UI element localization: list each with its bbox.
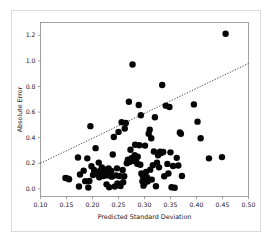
x-axis-label: Predicted Standard Deviation <box>98 213 192 221</box>
data-point <box>135 153 141 159</box>
y-tick-label: 0.8 <box>26 83 36 90</box>
data-point <box>120 179 126 185</box>
x-tick-label: 0.35 <box>164 201 178 208</box>
y-axis: 0.00.20.40.60.81.01.2Absolute Error <box>16 31 41 192</box>
data-point <box>206 155 212 161</box>
data-point <box>86 178 92 184</box>
data-point <box>137 162 143 168</box>
data-point <box>75 154 81 160</box>
data-point <box>179 173 185 179</box>
data-point <box>106 184 112 190</box>
data-point <box>136 142 142 148</box>
data-point <box>111 134 117 140</box>
data-point <box>164 161 170 167</box>
data-point <box>178 131 184 137</box>
data-point <box>122 125 128 131</box>
y-tick-label: 0.2 <box>26 159 36 166</box>
x-tick-label: 0.40 <box>190 201 204 208</box>
x-tick-label: 0.15 <box>60 201 74 208</box>
data-point <box>138 112 144 118</box>
y-tick-label: 0.0 <box>26 185 36 192</box>
x-tick-label: 0.45 <box>216 201 230 208</box>
data-point <box>152 114 158 120</box>
data-point <box>110 151 116 157</box>
x-tick-label: 0.10 <box>34 201 48 208</box>
data-point <box>76 183 82 189</box>
y-tick-label: 0.4 <box>26 134 36 141</box>
data-point <box>149 176 155 182</box>
data-point <box>136 102 142 108</box>
data-points-group <box>62 31 229 191</box>
data-point <box>123 120 129 126</box>
data-point <box>191 101 197 107</box>
data-point <box>108 168 114 174</box>
x-axis: 0.100.150.200.250.300.350.400.450.50Pred… <box>34 197 256 221</box>
y-tick-label: 0.6 <box>26 108 36 115</box>
data-point <box>121 173 127 179</box>
data-point <box>165 170 171 176</box>
x-tick-label: 0.50 <box>242 201 256 208</box>
data-point <box>174 155 180 161</box>
data-point <box>126 99 132 105</box>
y-tick-label: 1.0 <box>26 57 36 64</box>
data-point <box>119 167 125 173</box>
data-point <box>153 183 159 189</box>
data-point <box>148 135 154 141</box>
data-point <box>222 31 228 37</box>
data-point <box>127 147 133 153</box>
data-point <box>80 167 86 173</box>
data-point <box>159 82 165 88</box>
data-point <box>87 123 93 129</box>
data-point <box>197 135 203 141</box>
data-point <box>166 104 172 110</box>
data-point <box>160 149 166 155</box>
y-tick-label: 1.2 <box>26 31 36 38</box>
figure-container: 0.100.150.200.250.300.350.400.450.50Pred… <box>0 0 273 243</box>
data-point <box>175 162 181 168</box>
data-point <box>167 149 173 155</box>
data-point <box>85 184 91 190</box>
data-point <box>156 164 162 170</box>
x-tick-label: 0.25 <box>112 201 126 208</box>
data-point <box>114 165 120 171</box>
data-point <box>115 129 121 135</box>
x-tick-label: 0.30 <box>138 201 152 208</box>
y-axis-label: Absolute Error <box>16 86 24 132</box>
data-point <box>129 61 135 67</box>
data-point <box>142 142 148 148</box>
data-point <box>66 176 72 182</box>
data-point <box>194 118 200 124</box>
data-point <box>92 145 98 151</box>
data-point <box>171 185 177 191</box>
data-point <box>219 154 225 160</box>
data-point <box>147 127 153 133</box>
scatter-plot: 0.100.150.200.250.300.350.400.450.50Pred… <box>0 0 273 243</box>
data-point <box>84 155 90 161</box>
x-tick-label: 0.20 <box>86 201 100 208</box>
